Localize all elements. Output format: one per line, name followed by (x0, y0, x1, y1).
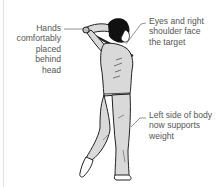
annotation-eyes-line: the target (149, 37, 215, 47)
legs (86, 94, 130, 176)
annotation-hands-line: placed (14, 44, 61, 54)
annotation-eyes: Eyes and right shoulder face the target (149, 16, 215, 47)
annotation-left-side-line: Left side of body (149, 110, 215, 120)
annotation-hands: Hands comfortably placed behind head (14, 23, 61, 75)
annotation-hands-line: comfortably (14, 33, 61, 43)
annotation-eyes-line: shoulder face (149, 26, 215, 36)
annotation-hands-line: behind head (14, 54, 61, 75)
annotation-eyes-line: Eyes and right (149, 16, 215, 26)
head (108, 18, 129, 42)
annotation-left-side-line: weight (149, 131, 215, 141)
torso (101, 43, 133, 96)
annotation-hands-line: Hands (14, 23, 61, 33)
annotation-left-side: Left side of body now supports weight (149, 110, 215, 141)
leader-line-left-side (131, 118, 146, 127)
annotation-left-side-line: now supports (149, 120, 215, 130)
